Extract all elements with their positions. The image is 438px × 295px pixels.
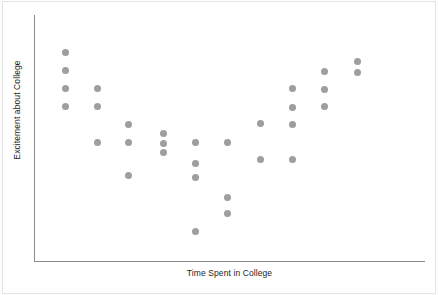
scatter-point (94, 139, 101, 146)
scatter-point (94, 85, 101, 92)
scatter-point (192, 174, 199, 181)
scatter-point (62, 103, 69, 110)
scatter-point (321, 68, 328, 75)
x-axis-line (34, 261, 425, 262)
scatter-point (321, 103, 328, 110)
scatter-point (125, 121, 132, 128)
scatter-point (224, 194, 231, 201)
scatter-point (62, 85, 69, 92)
scatter-point (94, 103, 101, 110)
scatter-point (321, 86, 328, 93)
scatter-point (192, 160, 199, 167)
plot-area (34, 15, 425, 261)
scatter-point (257, 120, 264, 127)
scatter-point (160, 130, 167, 137)
scatter-point (289, 156, 296, 163)
scatter-point (224, 210, 231, 217)
scatter-point (62, 49, 69, 56)
scatter-point (160, 149, 167, 156)
scatter-point (192, 139, 199, 146)
y-axis-label: Excitement about College (12, 30, 22, 190)
scatter-point (62, 67, 69, 74)
scatter-plot-figure: Excitement about College Time Spent in C… (0, 0, 438, 295)
scatter-point (289, 104, 296, 111)
scatter-point (125, 139, 132, 146)
scatter-point (125, 172, 132, 179)
scatter-point (354, 58, 361, 65)
scatter-point (354, 69, 361, 76)
scatter-point (289, 121, 296, 128)
scatter-point (224, 139, 231, 146)
scatter-point (257, 156, 264, 163)
x-axis-label: Time Spent in College (34, 268, 425, 278)
scatter-point (289, 85, 296, 92)
scatter-point (192, 228, 199, 235)
scatter-point (160, 140, 167, 147)
